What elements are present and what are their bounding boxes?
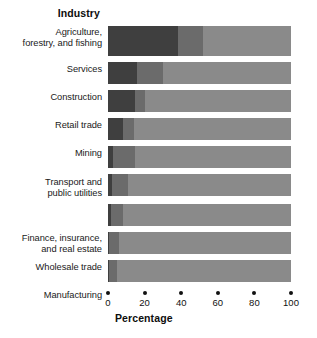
- category-label-line: Mining: [4, 148, 102, 159]
- bar-segment-light: [119, 232, 291, 254]
- bar-segment-light: [135, 146, 291, 168]
- category-label-line: Manufacturing: [4, 290, 102, 301]
- bar-row: [108, 62, 291, 84]
- category-label-line: Services: [4, 64, 102, 75]
- category-label: Retail trade: [4, 120, 108, 131]
- bar-segment-medium: [123, 118, 134, 140]
- x-tick-mark: [289, 291, 293, 295]
- category-label-line: Wholesale trade: [4, 262, 102, 273]
- bar-row: [108, 204, 291, 226]
- x-tick-label: 40: [176, 297, 187, 308]
- category-label-line: Transport and: [4, 177, 102, 188]
- bar-row: [108, 232, 291, 254]
- bar-segment-light: [203, 26, 291, 56]
- bar-segment-light: [163, 62, 291, 84]
- bar-segment-medium: [112, 174, 128, 196]
- bar-row: [108, 26, 291, 56]
- bar-row: [108, 174, 291, 196]
- bar-segment-dark: [108, 90, 135, 112]
- x-tick-mark: [179, 291, 183, 295]
- bar-segment-dark: [108, 118, 123, 140]
- x-tick-label: 20: [139, 297, 150, 308]
- plot-area: [108, 26, 291, 289]
- category-label: Transport andpublic utilities: [4, 177, 108, 199]
- bar-segment-dark: [108, 62, 137, 84]
- x-tick-mark: [252, 291, 256, 295]
- bar-row: [108, 118, 291, 140]
- category-label-line: Retail trade: [4, 120, 102, 131]
- category-label-line: forestry, and fishing: [4, 38, 102, 49]
- bar-segment-medium: [113, 146, 135, 168]
- x-tick-mark: [216, 291, 220, 295]
- category-label-line: public utilities: [4, 188, 102, 199]
- y-axis-title: Industry: [0, 7, 100, 19]
- stacked-bar-chart: Industry Agriculture,forestry, and fishi…: [0, 0, 317, 338]
- category-label-line: Construction: [4, 92, 102, 103]
- x-tick-label: 100: [283, 297, 299, 308]
- category-label: Manufacturing: [4, 290, 108, 301]
- category-label-column: Agriculture,forestry, and fishingService…: [0, 26, 108, 289]
- x-tick-label: 0: [105, 297, 110, 308]
- bar-segment-medium: [137, 62, 163, 84]
- bar-segment-light: [134, 118, 291, 140]
- bar-segment-medium: [135, 90, 144, 112]
- x-tick-mark: [143, 291, 147, 295]
- x-tick-label: 60: [213, 297, 224, 308]
- bar-segment-medium: [111, 204, 123, 226]
- bar-segment-medium: [109, 260, 117, 282]
- x-tick-label: 80: [249, 297, 260, 308]
- x-axis-title: Percentage: [108, 312, 291, 324]
- category-label: Mining: [4, 148, 108, 159]
- bar-segment-medium: [178, 26, 204, 56]
- bar-row: [108, 260, 291, 282]
- bar-row: [108, 146, 291, 168]
- category-label-line: Agriculture,: [4, 27, 102, 38]
- category-label: Services: [4, 64, 108, 75]
- bar-segment-light: [145, 90, 291, 112]
- x-tick-mark: [106, 291, 110, 295]
- bar-segment-light: [128, 174, 291, 196]
- bar-segment-medium: [109, 232, 119, 254]
- category-label: Agriculture,forestry, and fishing: [4, 27, 108, 49]
- bar-segment-dark: [108, 26, 178, 56]
- category-label-line: Finance, insurance,: [4, 233, 102, 244]
- bar-segment-light: [123, 204, 291, 226]
- category-label: Finance, insurance,and real estate: [4, 233, 108, 255]
- bar-row: [108, 90, 291, 112]
- category-label: Wholesale trade: [4, 262, 108, 273]
- bar-segment-light: [117, 260, 291, 282]
- category-label: Construction: [4, 92, 108, 103]
- category-label-line: and real estate: [4, 244, 102, 255]
